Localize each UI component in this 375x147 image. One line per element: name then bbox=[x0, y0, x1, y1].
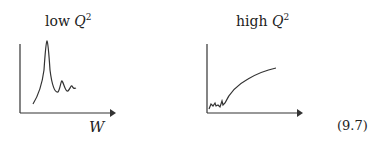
right-x-arrowhead bbox=[297, 109, 303, 117]
left-x-arrowhead bbox=[110, 109, 116, 117]
right-axes bbox=[207, 44, 297, 113]
resonance-curve bbox=[33, 41, 76, 104]
diagram-canvas bbox=[0, 0, 375, 147]
continuum-curve bbox=[209, 68, 276, 109]
